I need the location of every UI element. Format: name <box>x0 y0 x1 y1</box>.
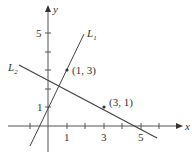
x-axis-arrow-icon <box>176 123 183 129</box>
y-axis-arrow-icon <box>45 5 51 12</box>
point-1-3-label: (1, 3) <box>72 64 96 77</box>
y-axis-label: y <box>52 3 58 15</box>
x-tick-label-3: 3 <box>101 131 107 143</box>
line-l1 <box>30 34 84 146</box>
line-l1-label: L1 <box>86 27 97 42</box>
point-3-1 <box>102 105 105 108</box>
x-tick-label-5: 5 <box>138 131 144 143</box>
y-tick-label-1: 1 <box>37 101 43 113</box>
x-tick-label-1: 1 <box>64 131 70 143</box>
x-axis-label: x <box>184 120 190 132</box>
point-1-3 <box>65 68 68 71</box>
line-l2-label: L2 <box>7 61 18 76</box>
y-tick-label-5: 5 <box>36 27 42 39</box>
point-3-1-label: (3, 1) <box>109 96 133 109</box>
coordinate-plane: x y 1 3 5 1 5 L1 L2 (1, 3) (3, 1) <box>0 0 192 157</box>
